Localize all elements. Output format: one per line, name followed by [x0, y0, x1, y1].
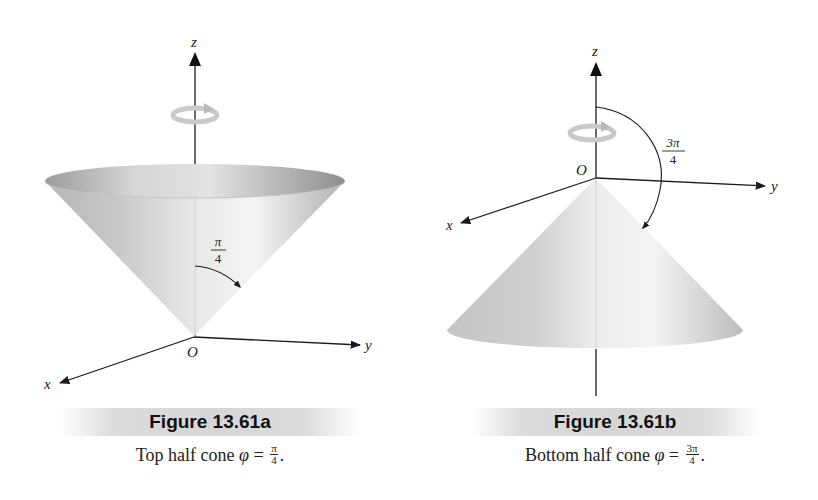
caption-b-frac-den: 4 — [686, 455, 699, 466]
y-axis-label-a: y — [363, 337, 372, 353]
caption-b-suffix: . — [701, 445, 706, 465]
angle-num-b: 3π — [665, 135, 680, 150]
figure-b-title: Figure 13.61b — [470, 408, 760, 436]
y-axis-a — [194, 337, 360, 345]
rotation-arrow-icon — [570, 121, 614, 140]
caption-a-frac-den: 4 — [270, 455, 278, 466]
caption-b-prefix: Bottom half cone — [525, 445, 654, 465]
angle-den-a: 4 — [215, 251, 222, 266]
figure-a-title: Figure 13.61a — [60, 408, 360, 436]
x-axis-label-b: x — [445, 217, 453, 233]
figure-a: z π 4 y x O — [43, 34, 372, 392]
caption-a-suffix: . — [280, 445, 285, 465]
caption-b-symbol: φ — [654, 445, 664, 465]
origin-label-a: O — [187, 344, 198, 360]
figure-a-caption: Top half cone φ = π4. — [60, 442, 360, 468]
z-axis-label-b: z — [591, 43, 598, 59]
figure-b: z 3π 4 y x O — [445, 43, 778, 396]
caption-a-equals: = — [249, 445, 268, 465]
x-axis-a — [60, 337, 194, 383]
caption-a-prefix: Top half cone — [136, 445, 239, 465]
cone-b-surface — [447, 178, 743, 348]
z-axis-arrow-icon — [189, 52, 201, 66]
z-axis-label-a: z — [190, 34, 197, 50]
y-axis-b — [596, 178, 765, 186]
angle-num-a: π — [215, 234, 222, 249]
angle-den-b: 4 — [670, 152, 677, 167]
caption-b-equals: = — [664, 445, 683, 465]
caption-b-fraction: 3π4 — [686, 443, 699, 466]
caption-a-fraction: π4 — [270, 443, 278, 466]
origin-label-b: O — [576, 162, 587, 178]
x-axis-label-a: x — [43, 376, 51, 392]
z-axis-arrow-icon — [590, 62, 602, 76]
figure-b-caption: Bottom half cone φ = 3π4. — [470, 442, 760, 468]
y-axis-label-b: y — [769, 178, 778, 194]
caption-a-symbol: φ — [239, 445, 249, 465]
